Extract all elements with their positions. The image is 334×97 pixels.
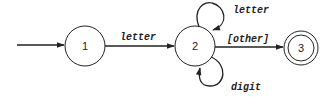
state-2[interactable]: 2 — [175, 26, 215, 66]
self-loop-letter-arrow — [197, 3, 224, 30]
state-2-label: 2 — [192, 40, 198, 52]
state-3-label: 3 — [298, 42, 304, 54]
self-loop-digit-label: digit — [231, 82, 261, 93]
dfa-diagram: 1 letter 2 letter digit [other] 3 — [0, 0, 334, 97]
state-1-label: 1 — [82, 40, 88, 52]
self-loop-digit-arrow — [199, 57, 223, 86]
transition-1-2-label: letter — [120, 32, 156, 43]
transition-2-3-label: [other] — [227, 34, 269, 45]
state-3[interactable]: 3 — [284, 31, 318, 65]
self-loop-letter-label: letter — [233, 5, 269, 16]
state-1[interactable]: 1 — [65, 26, 105, 66]
